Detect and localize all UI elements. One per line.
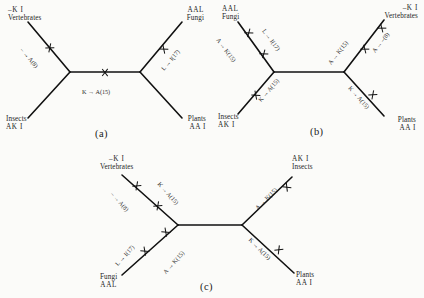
taxon-sequence: AA I bbox=[296, 279, 314, 287]
taxon-name: Fungi bbox=[187, 14, 204, 22]
taxon-name: Plants bbox=[398, 116, 416, 124]
panel-c: –K I Vertebrates AK I Insects Fungi AAL … bbox=[60, 149, 360, 298]
taxon-label-insects: AK I Insects bbox=[292, 155, 313, 172]
mutation-label: K → A(15) bbox=[82, 88, 110, 95]
taxon-name: Insects bbox=[6, 115, 27, 123]
panel-a: –K I Vertebrates AAL Fungi Insects AK I … bbox=[0, 0, 212, 149]
taxon-name: Vertebrates bbox=[100, 163, 133, 171]
taxon-label-insects: Insects AK I bbox=[6, 115, 27, 132]
taxon-label-vertebrates: –K I Vertebrates bbox=[385, 4, 418, 21]
taxon-sequence: AAL bbox=[222, 5, 239, 13]
taxon-sequence: AK I bbox=[218, 121, 239, 129]
taxon-label-fungi: Fungi AAL bbox=[100, 273, 117, 290]
taxon-sequence: –K I bbox=[8, 6, 41, 14]
taxon-sequence: AA I bbox=[398, 124, 416, 132]
panel-label-c: (c) bbox=[200, 281, 213, 292]
substitution-mark bbox=[101, 68, 110, 77]
taxon-sequence: AK I bbox=[292, 155, 313, 163]
taxon-sequence: –K I bbox=[100, 155, 133, 163]
taxon-name: Vertebrates bbox=[385, 12, 418, 20]
taxon-name: Insects bbox=[218, 113, 239, 121]
taxon-label-fungi: AAL Fungi bbox=[187, 6, 204, 23]
panel-b: AAL Fungi –K I Vertebrates Insects AK I … bbox=[212, 0, 424, 149]
panel-label-a: (a) bbox=[95, 128, 108, 139]
panel-label-b: (b) bbox=[310, 126, 323, 137]
taxon-sequence: AAL bbox=[187, 6, 204, 14]
taxon-label-plants: Plants AA I bbox=[398, 116, 416, 133]
taxon-label-vertebrates: –K I Vertebrates bbox=[8, 6, 41, 23]
taxon-label-plants: Plants AA I bbox=[188, 115, 206, 132]
taxon-label-fungi: AAL Fungi bbox=[222, 5, 239, 22]
taxon-sequence: –K I bbox=[385, 4, 418, 12]
taxon-label-plants: Plants AA I bbox=[296, 271, 314, 288]
taxon-name: Plants bbox=[296, 271, 314, 279]
taxon-name: Vertebrates bbox=[8, 14, 41, 22]
taxon-sequence: AA I bbox=[188, 123, 206, 131]
taxon-label-vertebrates: –K I Vertebrates bbox=[100, 155, 133, 172]
taxon-name: Fungi bbox=[222, 13, 239, 21]
taxon-sequence: AK I bbox=[6, 123, 27, 131]
taxon-name: Fungi bbox=[100, 273, 117, 281]
taxon-label-insects: Insects AK I bbox=[218, 113, 239, 130]
taxon-name: Insects bbox=[292, 163, 313, 171]
taxon-sequence: AAL bbox=[100, 281, 117, 289]
taxon-name: Plants bbox=[188, 115, 206, 123]
